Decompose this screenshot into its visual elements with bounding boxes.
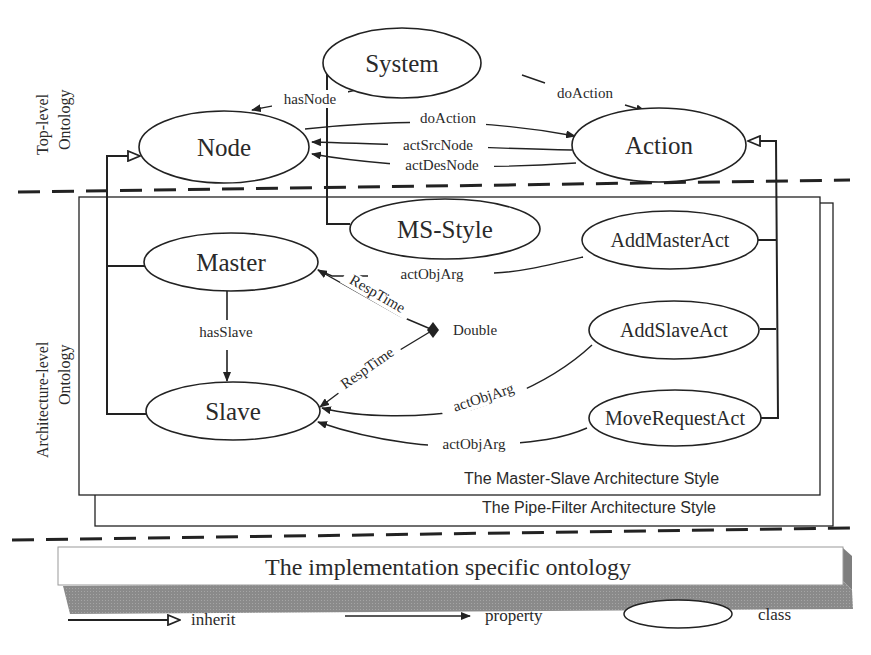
legend-inherit-label: inherit [191, 610, 236, 629]
class-system[interactable]: System [323, 28, 481, 98]
class-add-slave-act[interactable]: AddSlaveAct [589, 301, 759, 359]
label-system-doaction: doAction [557, 85, 613, 101]
svg-text:Ontology: Ontology [56, 90, 74, 150]
label-actdesnode: actDesNode [405, 157, 479, 173]
class-system-label: System [365, 50, 439, 77]
label-node-doaction: doAction [420, 110, 476, 126]
class-node-label: Node [197, 134, 251, 161]
class-slave-label: Slave [205, 398, 261, 425]
layer-divider-top [18, 180, 850, 192]
label-hasslave: hasSlave [199, 324, 253, 340]
class-master[interactable]: Master [144, 233, 318, 291]
layer-divider-bottom [12, 528, 852, 540]
svg-text:Ontology: Ontology [56, 345, 74, 405]
svg-text:Architecture-level: Architecture-level [34, 341, 51, 458]
class-slave[interactable]: Slave [146, 382, 320, 440]
implementation-ontology-bar: The implementation specific ontology [58, 547, 853, 614]
class-action-label: Action [625, 132, 694, 159]
label-moverequest-objarg: actObjArg [442, 436, 506, 452]
implementation-bar-label: The implementation specific ontology [265, 554, 631, 580]
architecture-level-ontology-label: Architecture-level Ontology [34, 341, 74, 458]
class-add-master-act[interactable]: AddMasterAct [582, 211, 758, 269]
class-move-request-act-label: MoveRequestAct [605, 407, 745, 430]
class-node[interactable]: Node [139, 111, 309, 183]
label-actsrcnode: actSrcNode [403, 137, 473, 153]
class-master-label: Master [196, 249, 266, 276]
svg-text:Top-level: Top-level [34, 93, 52, 155]
class-ms-style-label: MS-Style [397, 216, 493, 243]
class-add-master-act-label: AddMasterAct [611, 229, 730, 251]
top-level-ontology-label: Top-level Ontology [34, 90, 74, 155]
class-action[interactable]: Action [572, 108, 746, 182]
class-ms-style[interactable]: MS-Style [350, 199, 540, 259]
legend-class-icon [624, 600, 732, 628]
label-hasnode: hasNode [284, 91, 337, 107]
ontology-diagram: Top-level Ontology Architecture-level On… [0, 0, 871, 655]
master-slave-frame-label: The Master-Slave Architecture Style [464, 470, 719, 487]
legend-property-label: property [485, 606, 543, 625]
legend-class-label: class [758, 605, 791, 624]
class-add-slave-act-label: AddSlaveAct [620, 319, 728, 341]
label-addmaster-objarg: actObjArg [400, 266, 464, 282]
label-double: Double [453, 322, 498, 338]
pipe-filter-frame-label: The Pipe-Filter Architecture Style [482, 499, 716, 516]
class-move-request-act[interactable]: MoveRequestAct [589, 390, 761, 446]
